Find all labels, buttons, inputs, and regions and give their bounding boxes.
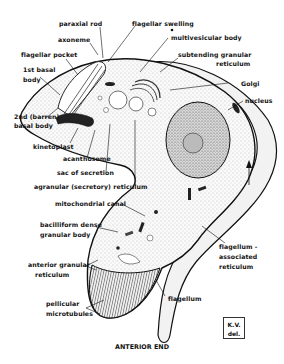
label-first-basal-body: 1st basal (23, 66, 56, 74)
label-multivesicular-body: multivesicular body (171, 34, 242, 42)
label-flagellum: flagellum (168, 295, 202, 303)
label-subtending-granular-reticulum-2: reticulum (216, 60, 250, 68)
label-mitochondrial-canal: mitochondrial canal (55, 200, 126, 208)
label-second-basal-body: 2nd (barren) (14, 113, 59, 121)
label-pellicular-microtubules: microtubules (46, 310, 93, 318)
label-kinetoplast: kinetoplast (33, 143, 74, 151)
label-flagellum-associated-1: flagellum - (219, 243, 258, 251)
label-bacilliform-granular-body: granular body (40, 231, 90, 239)
label-pellicular: pellicular (46, 300, 79, 308)
pellicular-microtubules (89, 265, 160, 318)
label-nucleus: nucleus (245, 97, 273, 105)
label-axoneme: axoneme (58, 36, 90, 44)
label-flagellum-associated-2: associated (219, 253, 257, 261)
label-golgi: Golgi (241, 80, 260, 88)
label-bacilliform-dense: bacilliform dense (40, 221, 102, 229)
label-acanthosome: acanthosome (63, 155, 111, 163)
label-anterior-granular-2: reticulum (35, 271, 69, 279)
label-second-basal-body-2: basal body (14, 122, 53, 130)
label-flagellar-swelling: flagellar swelling (132, 20, 194, 28)
signature-line-1: K.V. (224, 320, 244, 329)
label-paraxial-rod: paraxial rod (59, 20, 102, 28)
nucleolus (183, 133, 203, 153)
label-subtending-granular-reticulum: subtending granular (178, 51, 251, 59)
label-sac-of-secretion: sac of secretion (57, 169, 114, 177)
label-flagellum-associated-3: reticulum (219, 263, 253, 271)
label-agranular-reticulum: agranular (secretory) reticulum (34, 183, 148, 191)
orientation-caption: ANTERIOR END (0, 343, 284, 351)
label-flagellar-pocket: flagellar pocket (21, 51, 77, 59)
artist-signature: K.V. del. (223, 317, 245, 339)
label-anterior-granular: anterior granular (28, 261, 90, 269)
label-first-basal-body-2: body (23, 76, 41, 84)
signature-line-2: del. (224, 329, 244, 338)
